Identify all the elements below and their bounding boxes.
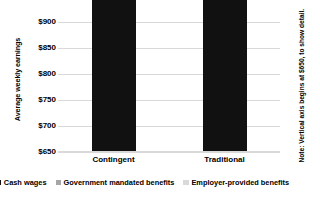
y-tick-label: $800 [14,70,56,78]
axis-note: Note: Vertical axis begins at $650, to s… [298,13,305,163]
y-tick-label: $750 [14,96,56,104]
y-tick-label: $650 [14,148,56,156]
y-axis-tick-labels: $900$850$800$750$700$650 [12,0,56,201]
bar-segment[interactable] [203,0,247,152]
bar-traditional[interactable] [203,0,247,152]
stacked-bar-chart: Average weekly earnings $900$850$800$750… [0,0,320,201]
chart-legend: Cash wagesGovernment mandated benefitsEm… [0,178,285,187]
legend-item[interactable]: Cash wages [0,178,47,187]
legend-swatch-icon [56,180,62,186]
x-axis-line [58,151,280,152]
plot-area [58,22,280,152]
y-tick-label: $850 [14,44,56,52]
y-tick-label: $900 [14,18,56,26]
legend-item[interactable]: Government mandated benefits [56,178,175,187]
legend-label: Cash wages [4,178,47,187]
x-tick-label: Contingent [64,155,164,165]
bar-contingent[interactable] [92,0,136,152]
legend-swatch-icon [0,180,1,186]
bar-segment[interactable] [92,0,136,152]
legend-swatch-icon [183,180,189,186]
gridline [58,152,280,153]
y-tick-label: $700 [14,122,56,130]
legend-label: Government mandated benefits [64,178,175,187]
x-tick-label: Traditional [175,155,275,165]
legend-item[interactable]: Employer-provided benefits [183,178,289,187]
legend-label: Employer-provided benefits [191,178,289,187]
